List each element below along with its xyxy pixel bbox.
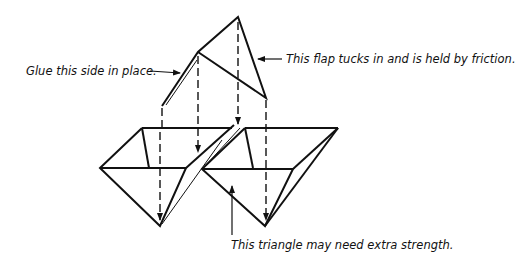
left-box — [100, 125, 234, 226]
flap-label: This flap tucks in and is held by fricti… — [286, 52, 516, 66]
assembly-diagram — [0, 0, 521, 260]
top-cap-piece — [162, 17, 266, 106]
glue-side-label: Glue this side in place. — [26, 64, 157, 78]
right-box — [202, 128, 338, 226]
triangle-label: This triangle may need extra strength. — [231, 238, 453, 252]
